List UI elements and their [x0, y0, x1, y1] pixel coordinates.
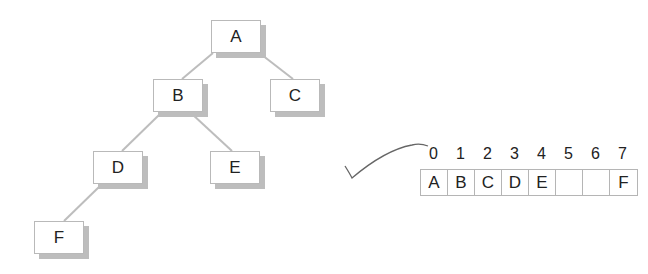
array-representation: A B C D E F [420, 169, 638, 196]
array-cell: B [448, 170, 475, 195]
array-index: 6 [582, 145, 609, 163]
array-cell: D [502, 170, 529, 195]
edge-b-d [122, 114, 160, 151]
array-index: 3 [501, 145, 528, 163]
check-mark-icon [345, 144, 428, 178]
tree-node-c: C [270, 79, 320, 112]
edge-d-f [64, 186, 100, 221]
array-index: 0 [420, 145, 447, 163]
array-cell: C [475, 170, 502, 195]
array-index: 7 [609, 145, 636, 163]
array-cell [583, 170, 610, 195]
array-index: 2 [474, 145, 501, 163]
array-index: 4 [528, 145, 555, 163]
tree-node-e: E [210, 151, 260, 184]
array-index: 1 [447, 145, 474, 163]
array-cell: F [610, 170, 637, 195]
array-index: 5 [555, 145, 582, 163]
edge-b-e [192, 114, 232, 151]
array-cell [556, 170, 583, 195]
tree-node-a: A [211, 20, 261, 53]
tree-node-f: F [34, 221, 84, 254]
edge-a-c [262, 55, 293, 79]
array-indices: 0 1 2 3 4 5 6 7 [420, 145, 636, 163]
tree-node-b: B [153, 79, 203, 112]
tree-node-d: D [93, 151, 143, 184]
array-cell: A [421, 170, 448, 195]
tree-edges [0, 0, 648, 274]
array-cell: E [529, 170, 556, 195]
edge-a-b [182, 53, 213, 79]
